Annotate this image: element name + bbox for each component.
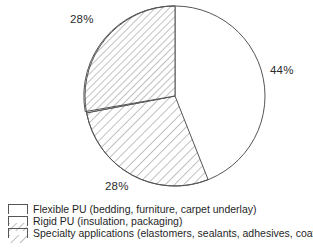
slice-label-specialty-applications: 28% — [105, 180, 129, 192]
slice-label-flexible-pu: 44% — [270, 64, 294, 76]
pie-chart-plot-area: 28% 44% 28% — [0, 0, 313, 196]
fine-diagonal-swatch-icon — [8, 216, 28, 226]
wide-diagonal-swatch-svg — [9, 235, 27, 243]
legend-item-specialty-applications: Specialty applications (elastomers, seal… — [8, 227, 311, 239]
legend-label-specialty-applications: Specialty applications (elastomers, seal… — [33, 227, 313, 239]
chart-legend: Flexible PU (bedding, furniture, carpet … — [8, 203, 311, 239]
pie-chart-figure: 28% 44% 28% Flexible PU (bedding, furnit… — [0, 0, 313, 251]
legend-label-flexible-pu: Flexible PU (bedding, furniture, carpet … — [33, 203, 257, 215]
legend-item-rigid-pu: Rigid PU (insulation, packaging) — [8, 215, 311, 227]
dense-crosshatch-swatch-icon — [8, 204, 28, 214]
slice-label-rigid-pu: 28% — [70, 13, 94, 25]
legend-label-rigid-pu: Rigid PU (insulation, packaging) — [33, 215, 182, 227]
legend-item-flexible-pu: Flexible PU (bedding, furniture, carpet … — [8, 203, 311, 215]
pie-slice-rigid-pu — [84, 6, 175, 112]
wide-diagonal-swatch-icon — [8, 228, 28, 238]
pie-chart-svg — [0, 0, 313, 196]
